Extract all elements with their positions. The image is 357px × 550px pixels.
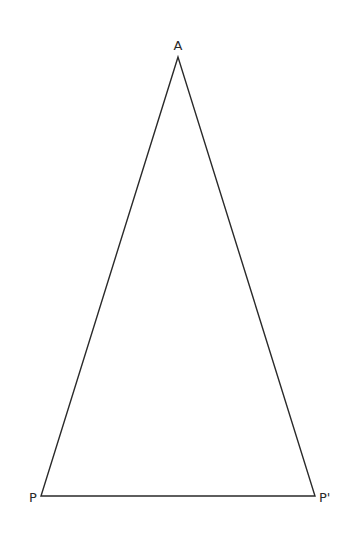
triangle-diagram: A P P': [0, 0, 357, 550]
vertex-label-apex: A: [174, 38, 183, 53]
triangle-shape: [41, 57, 315, 496]
vertex-label-left: P: [29, 490, 37, 505]
vertex-label-right: P': [319, 490, 330, 505]
